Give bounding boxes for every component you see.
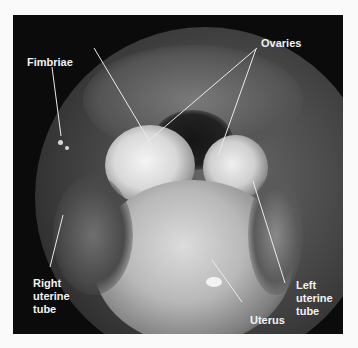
label-left-uterine-tube: Left uterine tube	[296, 279, 333, 318]
label-fimbriae: Fimbriae	[27, 56, 73, 69]
laparoscopic-photo: Fimbriae Ovaries Right uterine tube Left…	[13, 15, 343, 334]
label-line: tube	[296, 305, 333, 318]
label-ovaries: Ovaries	[261, 37, 301, 50]
label-line: tube	[33, 303, 70, 316]
label-right-uterine-tube: Right uterine tube	[33, 277, 70, 316]
label-line: uterine	[33, 290, 70, 303]
label-line: uterine	[296, 292, 333, 305]
label-uterus: Uterus	[250, 314, 285, 327]
label-line: Left	[296, 279, 333, 292]
label-line: Right	[33, 277, 70, 290]
